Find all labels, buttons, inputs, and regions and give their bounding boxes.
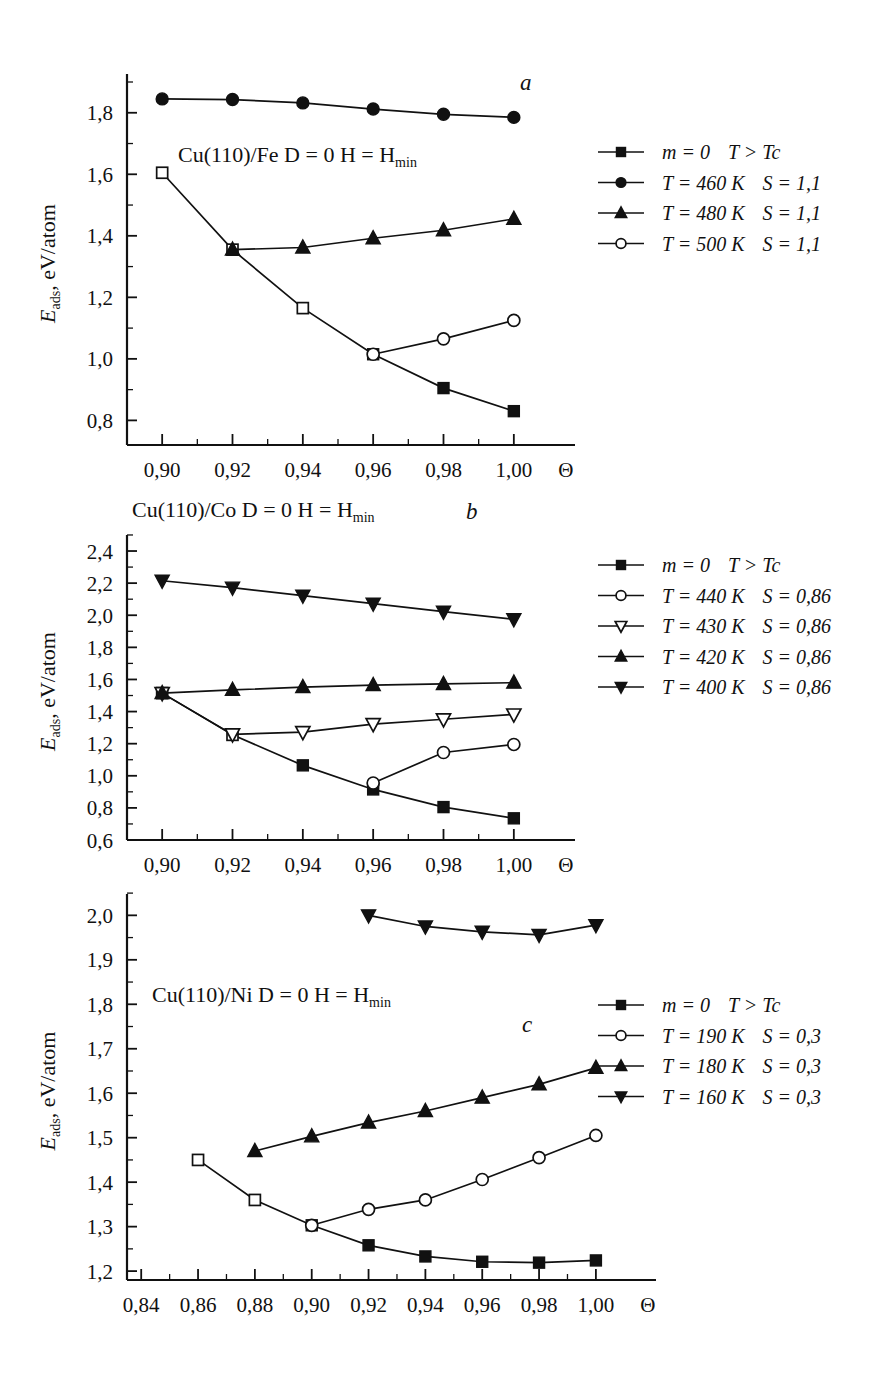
legend-item: m = 0T > Tc <box>598 994 780 1016</box>
x-tick-label: 1,00 <box>495 853 532 877</box>
y-tick-label: 1,6 <box>87 163 113 187</box>
legend-label: m = 0T > Tc <box>662 141 780 163</box>
y-tick-label: 1,4 <box>87 1171 114 1195</box>
x-axis-symbol: Θ <box>558 458 573 482</box>
y-tick-label: 1,0 <box>87 347 113 371</box>
data-point-marker-square-filled <box>420 1251 431 1262</box>
x-tick-label: 0,98 <box>425 853 462 877</box>
figure-page: 0,81,01,21,41,61,80,900,920,940,960,981,… <box>0 0 886 1373</box>
x-axis-symbol: Θ <box>558 853 573 877</box>
data-point-marker-triangle-down-open <box>615 622 627 633</box>
data-point-marker-square-filled <box>616 1000 625 1009</box>
series-line <box>162 99 514 117</box>
data-point-marker-triangle-up-filled <box>225 682 239 695</box>
x-axis-symbol: Θ <box>640 1293 655 1317</box>
chart-annotation: Cu(110)/Fe D = 0 H = Hmin <box>178 142 417 170</box>
x-tick-label: 0,94 <box>284 853 321 877</box>
data-point-marker-triangle-down-open <box>296 727 310 740</box>
data-point-marker-circle-open <box>363 1203 375 1215</box>
chart-a-svg: 0,81,01,21,41,61,80,900,920,940,960,981,… <box>0 40 886 500</box>
data-point-marker-triangle-up-filled <box>615 1060 627 1071</box>
x-tick-label: 0,86 <box>180 1293 217 1317</box>
series-1 <box>156 93 520 123</box>
legend-item: m = 0T > Tc <box>598 554 780 576</box>
data-point-marker-circle-open <box>590 1129 602 1141</box>
legend-item: T = 480 KS = 1,1 <box>598 202 821 224</box>
chart-annotation: Cu(110)/Co D = 0 H = Hmin <box>132 497 375 525</box>
legend-label: T = 180 KS = 0,3 <box>662 1055 821 1077</box>
legend-label: T = 460 KS = 1,1 <box>662 172 821 194</box>
y-tick-label: 1,2 <box>87 286 113 310</box>
data-point-marker-triangle-up-filled <box>615 650 627 661</box>
legend-label: T = 190 KS = 0,3 <box>662 1025 821 1047</box>
y-axis-label-text: Eads, eV/atom <box>35 1032 63 1152</box>
x-tick-label: 0,98 <box>521 1293 558 1317</box>
x-tick-label: 0,96 <box>355 458 392 482</box>
data-point-marker-square-filled <box>534 1257 545 1268</box>
data-point-marker-circle-open <box>367 777 379 789</box>
series-line <box>162 173 514 411</box>
axes-group: 0,60,81,01,21,41,61,82,02,22,40,900,920,… <box>87 535 575 877</box>
series-line <box>198 1160 596 1263</box>
data-point-marker-square-open <box>157 167 168 178</box>
series-2 <box>225 211 520 255</box>
x-tick-label: 0,84 <box>123 1293 160 1317</box>
chart-b-svg: 0,60,81,01,21,41,61,82,02,22,40,900,920,… <box>0 495 886 895</box>
y-tick-label: 0,8 <box>87 796 113 820</box>
panel-letter: a <box>520 70 532 95</box>
data-point-marker-square-filled <box>438 383 449 394</box>
x-tick-label: 0,94 <box>407 1293 444 1317</box>
series-2 <box>155 688 521 742</box>
data-point-marker-triangle-down-filled <box>615 683 627 694</box>
series-1 <box>367 738 520 789</box>
data-point-marker-circle-filled <box>297 97 309 109</box>
y-tick-label: 1,6 <box>87 668 113 692</box>
data-point-marker-square-filled <box>616 147 625 156</box>
data-point-marker-circle-open <box>367 348 379 360</box>
x-tick-label: 0,90 <box>293 1293 330 1317</box>
legend-item: T = 440 KS = 0,86 <box>598 585 831 607</box>
y-tick-label: 0,6 <box>87 829 113 853</box>
series-line <box>162 693 514 734</box>
y-tick-label: 1,8 <box>87 101 113 125</box>
legend-item: T = 190 KS = 0,3 <box>598 1025 821 1047</box>
x-tick-label: 0,90 <box>144 458 181 482</box>
y-tick-label: 1,9 <box>87 948 113 972</box>
chart-panel-b: 0,60,81,01,21,41,61,82,02,22,40,900,920,… <box>0 495 886 895</box>
x-tick-label: 0,88 <box>237 1293 274 1317</box>
series-line <box>162 581 514 620</box>
panel-letter: b <box>466 499 478 524</box>
data-point-marker-triangle-up-filled <box>436 676 450 689</box>
data-point-marker-circle-filled <box>438 108 450 120</box>
data-point-marker-circle-open <box>476 1173 488 1185</box>
y-axis-label: Eads, eV/atom <box>35 1032 63 1152</box>
data-point-marker-square-filled <box>297 760 308 771</box>
axes-group: 1,21,31,41,51,61,71,81,92,00,840,860,880… <box>87 893 656 1317</box>
x-tick-label: 0,96 <box>355 853 392 877</box>
series-0 <box>157 688 520 824</box>
legend-label: m = 0T > Tc <box>662 994 780 1016</box>
chart-panel-c: 1,21,31,41,51,61,71,81,92,00,840,860,880… <box>0 880 886 1350</box>
y-tick-label: 1,8 <box>87 993 113 1017</box>
y-tick-label: 1,0 <box>87 764 113 788</box>
data-point-marker-triangle-up-filled <box>507 675 521 688</box>
data-point-marker-circle-filled <box>367 103 379 115</box>
data-point-marker-triangle-up-filled <box>296 680 310 693</box>
legend-item: T = 180 KS = 0,3 <box>598 1055 821 1077</box>
x-tick-label: 1,00 <box>495 458 532 482</box>
data-point-marker-circle-filled <box>616 178 626 188</box>
legend: m = 0T > TcT = 460 KS = 1,1T = 480 KS = … <box>598 141 821 255</box>
legend-label: m = 0T > Tc <box>662 554 780 576</box>
legend: m = 0T > TcT = 440 KS = 0,86T = 430 KS =… <box>598 554 831 698</box>
y-axis-label: Eads, eV/atom <box>35 632 63 752</box>
legend-label: T = 430 KS = 0,86 <box>662 615 831 637</box>
data-point-marker-square-filled <box>438 802 449 813</box>
x-tick-label: 0,90 <box>144 853 181 877</box>
legend-label: T = 400 KS = 0,86 <box>662 676 831 698</box>
series-2 <box>248 1060 603 1156</box>
x-tick-label: 0,98 <box>425 458 462 482</box>
y-tick-label: 1,2 <box>87 1260 113 1284</box>
legend-item: T = 420 KS = 0,86 <box>598 646 831 668</box>
y-tick-label: 1,7 <box>87 1037 113 1061</box>
x-tick-label: 0,92 <box>214 853 251 877</box>
